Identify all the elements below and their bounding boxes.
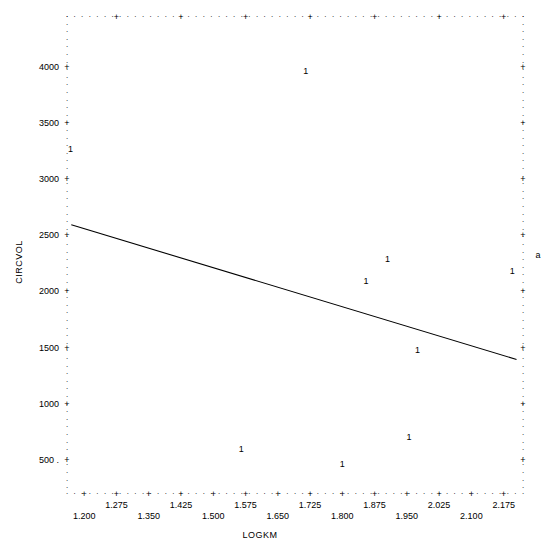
stray-glyph: a xyxy=(535,250,540,260)
frame-dot: · xyxy=(88,489,91,498)
y-tick-mark: + xyxy=(64,230,69,240)
frame-dot: · xyxy=(248,12,251,21)
y-tick-mark: + xyxy=(64,118,69,128)
frame-dot: · xyxy=(263,489,266,498)
frame-dot: · xyxy=(385,489,388,498)
y-tick-label: 4000 xyxy=(39,62,59,72)
x-tick-mark: + xyxy=(340,489,345,499)
frame-dot: · xyxy=(400,489,403,498)
frame-dot: · xyxy=(301,12,304,21)
frame-dot: · xyxy=(96,12,99,21)
frame-dot: · xyxy=(446,12,449,21)
frame-dot: · xyxy=(202,12,205,21)
frame-dot: · xyxy=(66,483,69,492)
y-tick-label: 1500 xyxy=(39,343,59,353)
frame-dot: · xyxy=(149,12,152,21)
data-point: 1 xyxy=(68,144,73,154)
y-tick-mark: + xyxy=(64,343,69,353)
x-tick-label-upper: 1.875 xyxy=(363,500,386,510)
frame-dot: · xyxy=(256,12,259,21)
frame-dot: · xyxy=(233,12,236,21)
frame-dot: · xyxy=(142,489,145,498)
frame-dot: · xyxy=(423,489,426,498)
x-tick-mark: + xyxy=(372,489,377,499)
frame-dot: · xyxy=(423,12,426,21)
frame-dot: · xyxy=(506,489,509,498)
frame-dot: · xyxy=(126,12,129,21)
frame-dot: · xyxy=(195,489,198,498)
x-tick-label-lower: 1.950 xyxy=(396,511,419,521)
frame-dot: · xyxy=(415,489,418,498)
frame-dot: · xyxy=(453,489,456,498)
x-tick-mark: + xyxy=(275,489,280,499)
x-tick-label-upper: 1.725 xyxy=(299,500,322,510)
x-tick-mark: + xyxy=(114,489,119,499)
x-tick-mark-top: + xyxy=(501,12,506,22)
x-tick-mark-top: + xyxy=(372,12,377,22)
frame-dot: · xyxy=(294,12,297,21)
y-tick-mark: + xyxy=(520,230,525,240)
frame-dot: · xyxy=(225,12,228,21)
x-tick-mark: + xyxy=(404,489,409,499)
frame-dot: · xyxy=(400,12,403,21)
x-tick-mark: + xyxy=(82,489,87,499)
frame-dot: · xyxy=(324,489,327,498)
x-tick-mark-top: + xyxy=(243,12,248,22)
x-tick-mark: + xyxy=(436,489,441,499)
y-tick-label: 2000 xyxy=(39,286,59,296)
x-tick-mark: + xyxy=(178,489,183,499)
x-tick-label-lower: 1.200 xyxy=(73,511,96,521)
y-tick-label: 2500 xyxy=(39,230,59,240)
x-tick-mark: + xyxy=(501,489,506,499)
chart-canvas: ········································… xyxy=(0,0,545,548)
frame-dot: · xyxy=(347,489,350,498)
frame-dot: · xyxy=(218,12,221,21)
y-axis-title: CIRCVOL xyxy=(14,240,24,284)
frame-dot: · xyxy=(476,489,479,498)
frame-dot: · xyxy=(271,489,274,498)
frame-dot: · xyxy=(506,12,509,21)
y-tick-mark: + xyxy=(64,399,69,409)
x-tick-label-lower: 1.650 xyxy=(267,511,290,521)
frame-dot: · xyxy=(187,489,190,498)
y-tick-mark: + xyxy=(520,118,525,128)
x-tick-mark-top: + xyxy=(436,12,441,22)
frame-dot: · xyxy=(522,483,525,492)
frame-dot: · xyxy=(119,489,122,498)
frame-dot: · xyxy=(476,12,479,21)
frame-dot: · xyxy=(195,12,198,21)
frame-dot: · xyxy=(202,489,205,498)
frame-dot: · xyxy=(347,12,350,21)
x-tick-label-upper: 1.575 xyxy=(234,500,257,510)
frame-dot: · xyxy=(316,12,319,21)
frame-dot: · xyxy=(339,12,342,21)
frame-dot: · xyxy=(392,489,395,498)
frame-dot: · xyxy=(126,489,129,498)
y-tick-mark: + xyxy=(520,455,525,465)
regression-line-layer xyxy=(71,225,516,360)
frame-dot: · xyxy=(430,12,433,21)
frame-dot: · xyxy=(491,12,494,21)
frame-dot: · xyxy=(263,12,266,21)
frame-dot: · xyxy=(142,12,145,21)
plot-frame: ········································… xyxy=(66,12,525,498)
frame-dot: · xyxy=(294,489,297,498)
x-axis-ticks: ++1.275++1.425++1.575++1.725++1.875++2.0… xyxy=(73,12,515,521)
frame-dot: · xyxy=(104,12,107,21)
frame-dot: · xyxy=(134,12,137,21)
frame-dot: · xyxy=(164,489,167,498)
y-tick-mark: + xyxy=(64,455,69,465)
frame-dot: · xyxy=(73,489,76,498)
x-tick-label-upper: 2.175 xyxy=(492,500,515,510)
x-tick-label-upper: 2.025 xyxy=(428,500,451,510)
frame-dot: · xyxy=(278,12,281,21)
frame-dot: · xyxy=(172,12,175,21)
y-tick-mark: + xyxy=(64,174,69,184)
frame-dot: · xyxy=(446,489,449,498)
frame-dot: · xyxy=(484,12,487,21)
frame-dot: · xyxy=(332,12,335,21)
y-tick-label: 3500 xyxy=(39,118,59,128)
x-tick-mark-top: + xyxy=(114,12,119,22)
frame-dot: · xyxy=(461,12,464,21)
y-tick-label: 500 . xyxy=(39,455,59,465)
